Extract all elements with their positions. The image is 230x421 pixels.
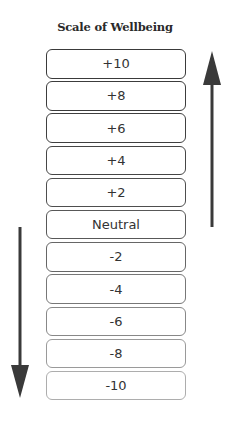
scale-level-minus-4: -4	[46, 274, 186, 304]
scale-level-plus-8: +8	[46, 81, 186, 111]
down-arrow-icon	[8, 225, 32, 401]
up-arrow-icon	[200, 48, 224, 230]
scale-level-minus-10: -10	[46, 371, 186, 401]
diagram-title: Scale of Wellbeing	[0, 20, 230, 34]
scale-level-plus-6: +6	[46, 113, 186, 143]
wellbeing-scale: +10 +8 +6 +4 +2 Neutral -2 -4 -6 -8 -10	[46, 49, 186, 403]
scale-level-neutral: Neutral	[46, 210, 186, 240]
scale-level-plus-4: +4	[46, 146, 186, 176]
scale-level-plus-2: +2	[46, 178, 186, 208]
scale-level-plus-10: +10	[46, 49, 186, 79]
scale-level-minus-8: -8	[46, 339, 186, 369]
scale-level-minus-6: -6	[46, 307, 186, 337]
scale-level-minus-2: -2	[46, 242, 186, 272]
